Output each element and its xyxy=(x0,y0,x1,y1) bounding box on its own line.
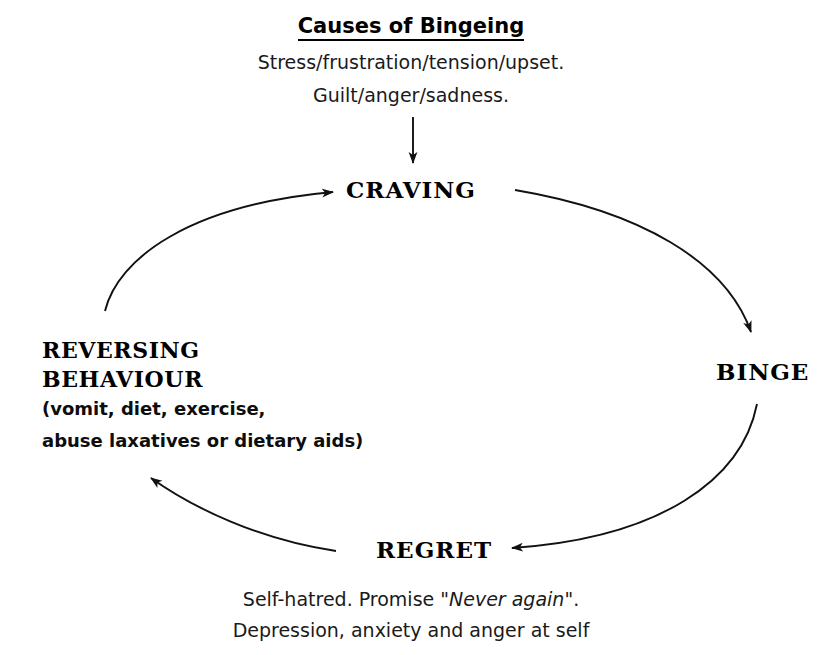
arrow-craving-to-binge xyxy=(515,190,751,332)
causes-line-2: Guilt/anger/sadness. xyxy=(0,84,822,107)
node-craving: CRAVING xyxy=(0,176,822,203)
bingeing-cycle-diagram: Causes of Bingeing Stress/frustration/te… xyxy=(0,0,822,655)
causes-line-1: Stress/frustration/tension/upset. xyxy=(0,51,822,74)
arrow-reversing-to-craving xyxy=(105,192,333,311)
node-reversing-behaviour: REVERSING BEHAVIOUR (vomit, diet, exerci… xyxy=(42,336,372,456)
node-regret: REGRET xyxy=(376,536,492,563)
regret-detail-line-2: Depression, anxiety and anger at self xyxy=(0,621,822,640)
reversing-behaviour-line-2: BEHAVIOUR xyxy=(42,365,372,394)
regret-detail-emphasis: Never again xyxy=(449,588,564,610)
reversing-behaviour-line-1: REVERSING xyxy=(42,336,372,365)
node-binge: BINGE xyxy=(716,358,809,385)
causes-title: Causes of Bingeing xyxy=(298,14,525,41)
arrow-regret-to-reversing xyxy=(151,478,336,551)
causes-block: Causes of Bingeing Stress/frustration/te… xyxy=(0,14,822,107)
arrow-binge-to-regret xyxy=(512,404,757,548)
regret-detail-block: Self-hatred. Promise "Never again". Depr… xyxy=(0,578,822,640)
regret-detail-line-1: Self-hatred. Promise "Never again". xyxy=(0,590,822,609)
reversing-behaviour-detail-line-2: abuse laxatives or dietary aids) xyxy=(42,425,372,457)
regret-detail-prefix: Self-hatred. Promise " xyxy=(243,588,449,610)
reversing-behaviour-detail-line-1: (vomit, diet, exercise, xyxy=(42,393,372,425)
regret-detail-suffix: ". xyxy=(564,588,579,610)
